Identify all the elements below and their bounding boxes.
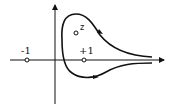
label-minus-one: -1 [21, 45, 31, 56]
contour-path [62, 14, 152, 77]
point-plus-one [82, 58, 86, 62]
label-z: z [80, 23, 84, 32]
contour-diagram: -1 +1 z [0, 0, 172, 111]
label-plus-one: +1 [79, 45, 94, 56]
point-minus-one [25, 58, 29, 62]
point-z [74, 31, 78, 35]
contour-arrow-upper [97, 29, 103, 34]
